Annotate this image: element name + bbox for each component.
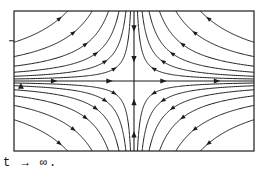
phase-portrait-figure (0, 0, 272, 176)
figure-page: t → ∞. (0, 0, 272, 176)
figure-caption: t → ∞. (3, 156, 58, 170)
